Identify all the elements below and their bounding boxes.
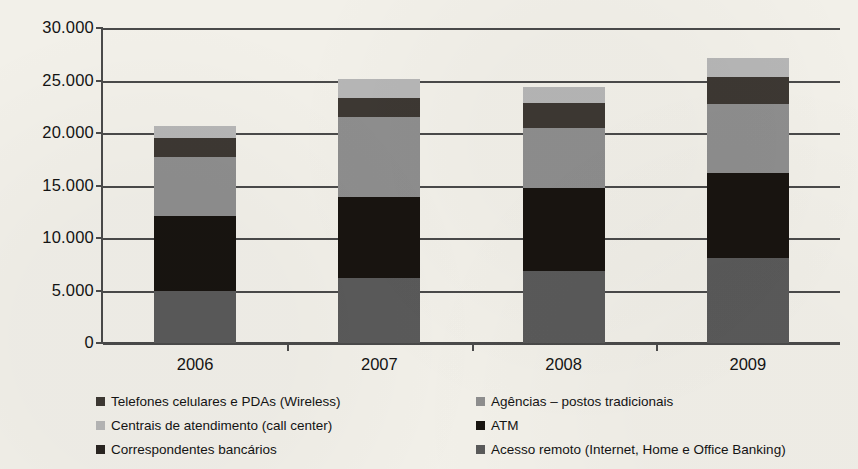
legend-swatch-icon: [96, 445, 105, 454]
legend-label: Acesso remoto (Internet, Home e Office B…: [491, 443, 786, 457]
bar-segment[interactable]: [338, 117, 420, 197]
x-tick-mark: [472, 344, 474, 351]
bar-segment[interactable]: [338, 278, 420, 343]
x-tick-label-2009: 2009: [688, 355, 808, 374]
legend-item[interactable]: Telefones celulares e PDAs (Wireless): [96, 392, 476, 411]
y-tick-label: 25.000: [42, 71, 94, 90]
legend-label: Correspondentes bancários: [111, 443, 277, 457]
y-tick-label: 0: [85, 333, 94, 352]
legend-swatch-icon: [96, 421, 105, 430]
legend-label: Centrais de atendimento (call center): [111, 419, 332, 433]
y-tick-label: 20.000: [42, 123, 94, 142]
y-tick-label: 10.000: [42, 228, 94, 247]
y-axis-labels: 30.00025.00020.00015.00010.0005.0000: [0, 0, 94, 469]
y-tick-label: 5.000: [52, 281, 94, 300]
legend-label: ATM: [491, 419, 519, 433]
y-tick-label: 30.000: [42, 18, 94, 37]
chart-root: 30.00025.00020.00015.00010.0005.0000 200…: [0, 0, 858, 469]
chart-legend: Telefones celulares e PDAs (Wireless)Cen…: [96, 392, 856, 459]
y-tick-mark: [96, 290, 103, 292]
legend-swatch-icon: [476, 397, 485, 406]
bar-segment[interactable]: [154, 138, 236, 157]
x-tick-label-2008: 2008: [504, 355, 624, 374]
bar-segment[interactable]: [523, 271, 605, 343]
bar-segment[interactable]: [338, 79, 420, 98]
x-tick-label-2007: 2007: [319, 355, 439, 374]
bar-segment[interactable]: [707, 258, 789, 343]
bar-2008[interactable]: [523, 87, 605, 343]
x-tick-mark: [656, 344, 658, 351]
bar-segment[interactable]: [338, 98, 420, 117]
legend-item[interactable]: Centrais de atendimento (call center): [96, 416, 476, 435]
bar-segment[interactable]: [707, 104, 789, 173]
y-tick-mark: [96, 132, 103, 134]
legend-item[interactable]: Correspondentes bancários: [96, 440, 476, 459]
bar-segment[interactable]: [338, 197, 420, 278]
bar-segment[interactable]: [707, 173, 789, 258]
y-tick-mark: [96, 237, 103, 239]
legend-swatch-icon: [476, 421, 485, 430]
y-tick-mark: [96, 342, 103, 344]
y-tick-mark: [96, 80, 103, 82]
bar-segment[interactable]: [707, 58, 789, 77]
legend-item[interactable]: Agências – postos tradicionais: [476, 392, 856, 411]
y-tick-mark: [96, 27, 103, 29]
y-tick-label: 15.000: [42, 176, 94, 195]
x-tick-label-2006: 2006: [135, 355, 255, 374]
legend-label: Telefones celulares e PDAs (Wireless): [111, 395, 341, 409]
bar-segment[interactable]: [154, 157, 236, 216]
bar-segment[interactable]: [523, 103, 605, 128]
bar-2006[interactable]: [154, 126, 236, 343]
bar-segment[interactable]: [154, 291, 236, 344]
legend-column-right: Agências – postos tradicionaisATMAcesso …: [476, 392, 856, 459]
bar-segment[interactable]: [154, 126, 236, 139]
legend-item[interactable]: ATM: [476, 416, 856, 435]
bar-segment[interactable]: [154, 216, 236, 291]
bar-segment[interactable]: [707, 77, 789, 103]
legend-label: Agências – postos tradicionais: [491, 395, 673, 409]
bar-segment[interactable]: [523, 87, 605, 103]
bar-2007[interactable]: [338, 79, 420, 343]
x-tick-mark: [287, 344, 289, 351]
legend-column-left: Telefones celulares e PDAs (Wireless)Cen…: [96, 392, 476, 459]
bar-segment[interactable]: [523, 188, 605, 271]
bar-2009[interactable]: [707, 58, 789, 343]
bar-segment[interactable]: [523, 128, 605, 188]
legend-swatch-icon: [476, 445, 485, 454]
legend-item[interactable]: Acesso remoto (Internet, Home e Office B…: [476, 440, 856, 459]
legend-swatch-icon: [96, 397, 105, 406]
y-tick-mark: [96, 185, 103, 187]
bars-container: [103, 28, 840, 343]
